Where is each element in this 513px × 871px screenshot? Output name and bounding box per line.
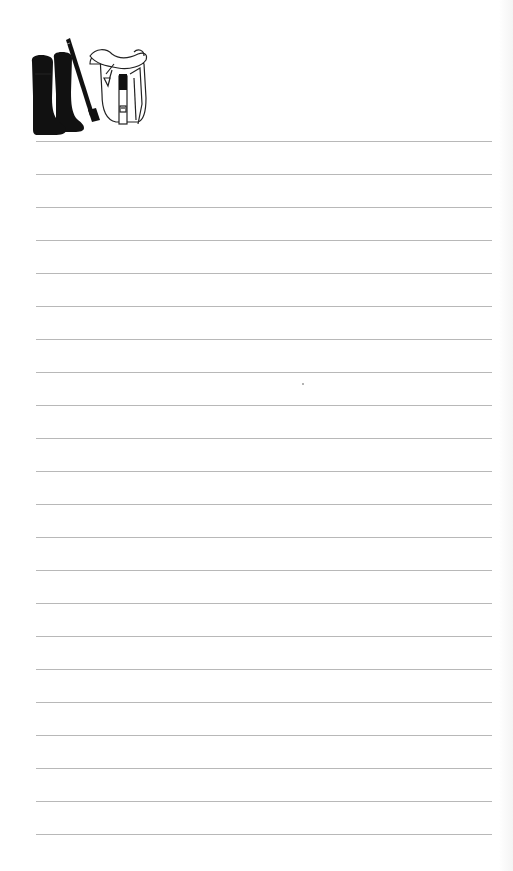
ruled-line: [36, 174, 492, 175]
ruled-line: [36, 537, 492, 538]
ruled-line: [36, 306, 492, 307]
ruled-line: [36, 636, 492, 637]
ruled-line: [36, 207, 492, 208]
ruled-line: [36, 438, 492, 439]
ruled-line: [36, 768, 492, 769]
ruled-line: [36, 405, 492, 406]
ruled-line: [36, 801, 492, 802]
ruled-line: [36, 669, 492, 670]
page-edge-shadow: [499, 0, 513, 871]
ruled-line: [36, 570, 492, 571]
ruled-line: [36, 240, 492, 241]
ruled-line: [36, 702, 492, 703]
paper-speck: [302, 383, 304, 385]
ruled-line: [36, 339, 492, 340]
saddle-icon: [90, 50, 147, 124]
equestrian-illustration: [26, 34, 150, 136]
ruled-line: [36, 504, 492, 505]
ruled-line: [36, 273, 492, 274]
ruled-line: [36, 471, 492, 472]
ruled-line: [36, 372, 492, 373]
ruled-line: [36, 735, 492, 736]
ruled-line: [36, 603, 492, 604]
notepad-page: [0, 0, 513, 871]
ruled-line: [36, 141, 492, 142]
ruled-line: [36, 834, 492, 835]
